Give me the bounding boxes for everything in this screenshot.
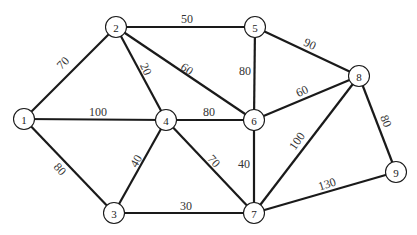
edge-weight-label: 80 [377, 113, 394, 129]
edge-weight-label: 40 [238, 157, 250, 171]
edge-weight-label: 100 [286, 130, 308, 153]
node-2: 2 [106, 17, 127, 38]
edges-layer [24, 27, 396, 213]
node-3: 3 [104, 203, 125, 224]
edge-1-3 [24, 119, 114, 213]
graph-diagram: 7010080502060804070308090604010013080 12… [0, 0, 417, 235]
edge-weight-label: 60 [178, 60, 196, 78]
edge-weight-label: 70 [54, 54, 72, 72]
node-label: 6 [251, 115, 257, 127]
node-label: 2 [113, 22, 119, 34]
node-label: 8 [356, 71, 362, 83]
node-5: 5 [245, 17, 266, 38]
node-label: 5 [252, 22, 258, 34]
edge-1-4 [24, 119, 166, 120]
edge-weight-label: 100 [89, 105, 107, 119]
edge-weight-label: 40 [127, 152, 145, 169]
node-9: 9 [386, 162, 407, 183]
node-4: 4 [156, 110, 177, 131]
node-7: 7 [244, 203, 265, 224]
node-label: 7 [251, 208, 257, 220]
edge-weight-label: 70 [205, 152, 223, 170]
node-6: 6 [244, 110, 265, 131]
edge-weight-label: 50 [181, 12, 193, 26]
node-1: 1 [14, 109, 35, 130]
node-8: 8 [349, 66, 370, 87]
node-label: 4 [163, 115, 169, 127]
edge-weight-label: 80 [203, 105, 215, 119]
edge-weight-label: 80 [239, 64, 251, 78]
edge-5-6 [254, 27, 255, 120]
edge-weight-label: 30 [180, 199, 192, 213]
node-label: 9 [393, 167, 399, 179]
node-label: 3 [111, 208, 117, 220]
node-label: 1 [21, 114, 27, 126]
edge-weight-label: 20 [137, 61, 155, 78]
